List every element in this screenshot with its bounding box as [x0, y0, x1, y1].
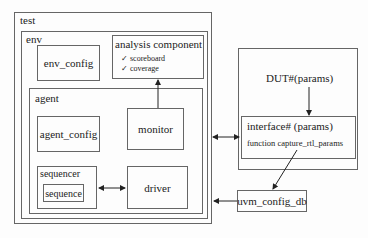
driver-box: driver [127, 166, 188, 209]
uvm-config-db-box: uvm_config_db [237, 190, 307, 212]
monitor-box: monitor [127, 108, 184, 150]
uvm-config-db-label: uvm_config_db [237, 195, 307, 207]
analysis-component-label: analysis component [115, 38, 202, 50]
interface-box: interface# (params) function capture_rtl… [241, 116, 356, 159]
sequence-label: sequence [45, 188, 82, 199]
sequencer-label: sequencer [40, 168, 80, 179]
sequencer-box: sequencer sequence [37, 166, 97, 209]
interface-label: interface# (params) [247, 120, 333, 132]
sequence-box: sequence [43, 184, 84, 202]
agent-label: agent [35, 92, 59, 104]
env-config-box: env_config [37, 45, 100, 81]
test-label: test [20, 14, 35, 26]
analysis-item-scoreboard: ✓ scoreboard [121, 54, 165, 63]
env-config-label: env_config [44, 57, 93, 69]
analysis-component-box: analysis component ✓ scoreboard ✓ covera… [112, 35, 204, 79]
env-label: env [26, 33, 42, 45]
interface-function-label: function capture_rtl_params [247, 138, 343, 148]
dut-label: DUT#(params) [266, 72, 333, 84]
analysis-item-coverage: ✓ coverage [121, 64, 159, 73]
driver-label: driver [144, 182, 170, 194]
agent-config-label: agent_config [40, 128, 97, 140]
agent-config-box: agent_config [37, 116, 100, 152]
monitor-label: monitor [138, 123, 173, 135]
